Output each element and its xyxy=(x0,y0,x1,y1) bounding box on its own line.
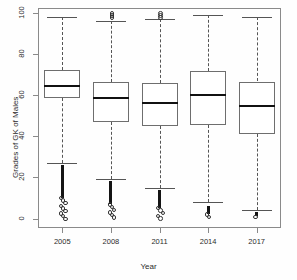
x-tick-mark xyxy=(111,228,112,233)
x-tick-mark xyxy=(257,228,258,233)
cap-lower xyxy=(96,179,126,180)
y-tick-label: 80 xyxy=(17,44,26,62)
cap-upper xyxy=(96,21,126,22)
x-tick-label: 2017 xyxy=(243,237,271,246)
outlier-point xyxy=(158,216,162,220)
box-2014 xyxy=(190,71,226,125)
outlier-point xyxy=(63,217,67,221)
x-axis-title: Year xyxy=(0,262,297,271)
outlier-point-high xyxy=(158,11,163,16)
cap-lower xyxy=(145,188,175,189)
whisker-lower xyxy=(111,122,112,180)
x-tick-label: 2005 xyxy=(48,237,76,246)
median-line xyxy=(142,102,178,104)
cap-upper xyxy=(193,15,223,16)
y-tick-label: 40 xyxy=(17,127,26,145)
y-tick-label: 0 xyxy=(17,209,26,227)
median-line xyxy=(239,105,275,107)
y-tick-label: 60 xyxy=(17,85,26,103)
cap-lower xyxy=(242,210,272,211)
outlier-cluster xyxy=(61,165,64,198)
whisker-upper xyxy=(62,17,63,71)
median-line xyxy=(190,94,226,96)
outlier-point xyxy=(63,209,67,213)
y-tick-label: 100 xyxy=(17,3,26,21)
boxplot-figure: Grades of GK of Males 020406080100 20052… xyxy=(0,0,297,280)
x-tick-label: 2011 xyxy=(146,237,174,246)
cap-lower xyxy=(47,163,77,164)
median-line xyxy=(93,97,129,99)
x-tick-label: 2008 xyxy=(97,237,125,246)
outlier-cluster xyxy=(158,190,161,208)
whisker-lower xyxy=(160,126,161,188)
y-tick-label: 20 xyxy=(17,168,26,186)
box-2017 xyxy=(239,82,275,135)
x-tick-mark xyxy=(160,228,161,233)
median-line xyxy=(44,85,80,87)
x-tick-mark xyxy=(208,228,209,233)
whisker-lower xyxy=(62,98,63,163)
whisker-lower xyxy=(257,134,258,210)
outlier-cluster xyxy=(109,181,112,204)
cap-lower xyxy=(193,202,223,203)
whisker-lower xyxy=(208,125,209,202)
outlier-point xyxy=(253,215,257,219)
whisker-upper xyxy=(257,17,258,82)
outlier-point-high xyxy=(110,11,115,16)
box-2008 xyxy=(93,82,129,122)
cap-upper xyxy=(242,17,272,18)
x-tick-mark xyxy=(62,228,63,233)
outlier-point xyxy=(112,215,116,219)
whisker-upper xyxy=(208,15,209,72)
whisker-upper xyxy=(111,21,112,82)
cap-upper xyxy=(47,17,77,18)
x-tick-label: 2014 xyxy=(194,237,222,246)
whisker-upper xyxy=(160,19,161,83)
